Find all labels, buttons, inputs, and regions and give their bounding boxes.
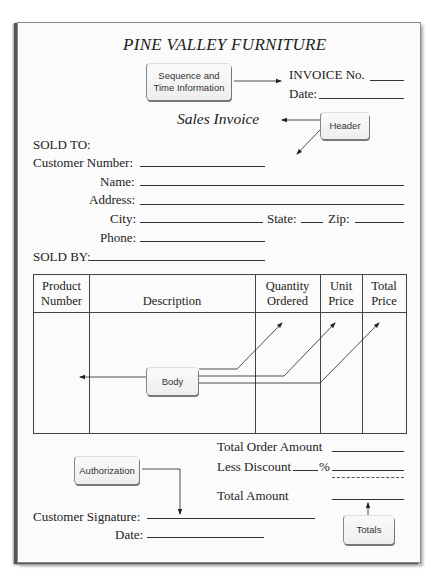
callout-totals-label: Totals bbox=[357, 524, 382, 536]
state-label: State: bbox=[267, 212, 297, 225]
customer-signature-field[interactable] bbox=[147, 518, 315, 519]
callout-authorization-label: Authorization bbox=[79, 465, 134, 477]
name-field[interactable] bbox=[140, 185, 404, 186]
phone-field[interactable] bbox=[140, 241, 265, 242]
callout-authorization: Authorization bbox=[74, 456, 139, 484]
signature-date-field[interactable] bbox=[147, 537, 264, 538]
column-header-unit-price: Unit Price bbox=[320, 279, 362, 309]
zip-label: Zip: bbox=[328, 212, 350, 225]
total-order-amount-label: Total Order Amount bbox=[217, 440, 322, 453]
total-order-amount-field[interactable] bbox=[332, 451, 404, 452]
total-amount-label: Total Amount bbox=[217, 489, 289, 502]
customer-number-label: Customer Number: bbox=[33, 156, 133, 169]
sold-by-label: SOLD BY: bbox=[33, 250, 91, 263]
address-label: Address: bbox=[89, 193, 135, 206]
header-line2: Description bbox=[89, 294, 255, 309]
header-separator bbox=[34, 312, 406, 313]
sold-to-label: SOLD TO: bbox=[33, 138, 91, 151]
less-discount-label: Less Discount bbox=[217, 460, 291, 473]
callout-sequence-line1: Sequence and bbox=[158, 70, 219, 81]
address-field[interactable] bbox=[140, 204, 404, 205]
invoice-no-label: INVOICE No. bbox=[289, 68, 365, 81]
city-label: City: bbox=[110, 212, 136, 225]
name-label: Name: bbox=[100, 175, 135, 188]
callout-body: Body bbox=[146, 367, 198, 395]
total-amount-field[interactable] bbox=[332, 499, 404, 500]
header-line1: Quantity bbox=[255, 279, 320, 294]
header-line1 bbox=[89, 279, 255, 294]
header-line2: Price bbox=[362, 294, 406, 309]
column-header-total-price: Total Price bbox=[362, 279, 406, 309]
company-name: PINE VALLEY FURNITURE bbox=[123, 36, 326, 53]
zip-field[interactable] bbox=[355, 222, 404, 223]
signature-date-label: Date: bbox=[115, 528, 143, 541]
sold-by-field[interactable] bbox=[90, 260, 265, 261]
state-field[interactable] bbox=[301, 222, 323, 223]
column-header-product-number: Product Number bbox=[34, 279, 89, 309]
invoice-date-field[interactable] bbox=[319, 98, 404, 99]
date-label: Date: bbox=[289, 87, 317, 100]
header-line1: Total bbox=[362, 279, 406, 294]
subtotal-dashed-line bbox=[332, 477, 404, 478]
callout-header-label: Header bbox=[329, 120, 360, 132]
form-title: Sales Invoice bbox=[177, 111, 259, 127]
callout-sequence-line2: Time Information bbox=[154, 82, 225, 93]
header-line2: Number bbox=[34, 294, 89, 309]
header-line2: Price bbox=[320, 294, 362, 309]
line-items-table: Product Number Description Quantity Orde… bbox=[33, 274, 407, 434]
customer-number-field[interactable] bbox=[140, 166, 265, 167]
column-header-description: Description bbox=[89, 279, 255, 309]
invoice-no-field[interactable] bbox=[370, 80, 404, 81]
header-line2: Ordered bbox=[255, 294, 320, 309]
callout-header: Header bbox=[320, 112, 369, 139]
header-line1: Unit bbox=[320, 279, 362, 294]
discount-amount-field[interactable] bbox=[332, 470, 404, 471]
callout-body-label: Body bbox=[162, 376, 184, 388]
percent-sign: % bbox=[319, 460, 330, 473]
column-header-quantity-ordered: Quantity Ordered bbox=[255, 279, 320, 309]
city-field[interactable] bbox=[140, 222, 263, 223]
callout-sequence-time: Sequence andTime Information bbox=[146, 63, 231, 100]
discount-percent-field[interactable] bbox=[293, 470, 318, 471]
customer-signature-label: Customer Signature: bbox=[33, 510, 140, 523]
phone-label: Phone: bbox=[100, 231, 136, 244]
callout-totals: Totals bbox=[343, 515, 394, 544]
header-line1: Product bbox=[34, 279, 89, 294]
